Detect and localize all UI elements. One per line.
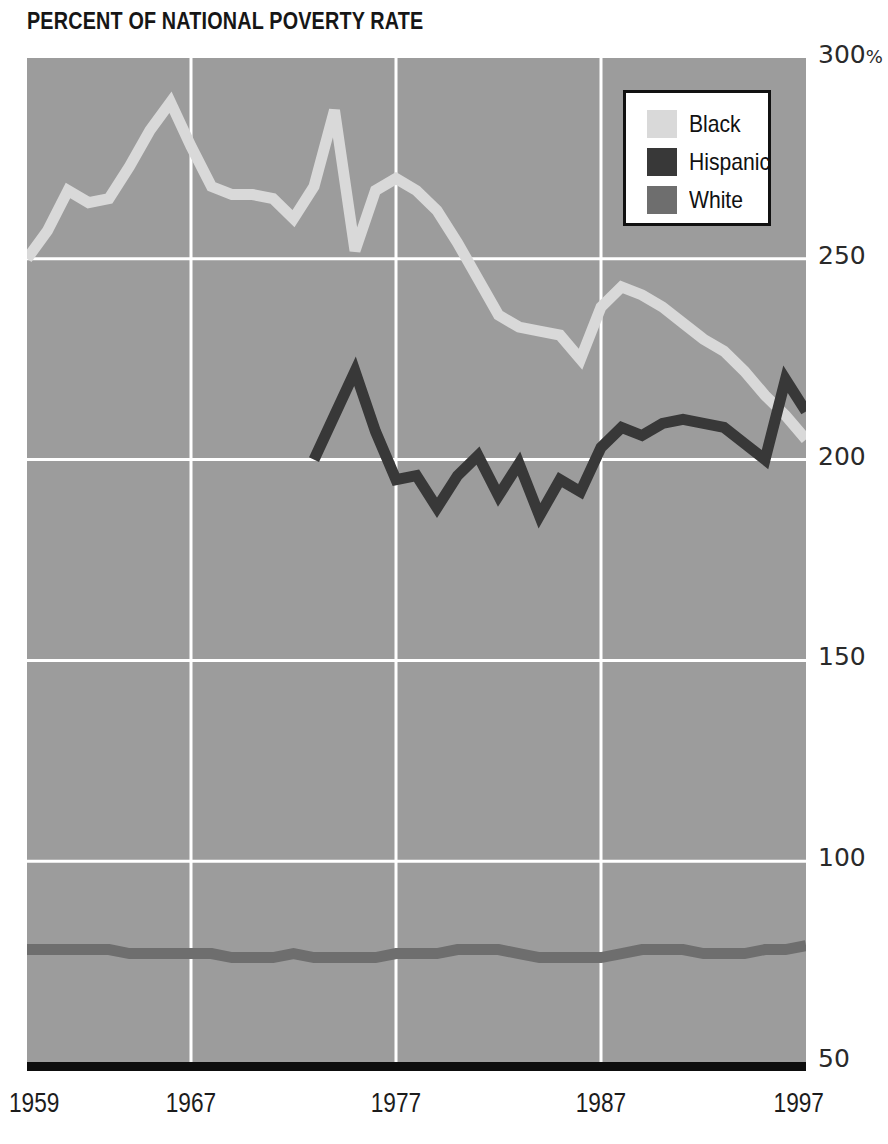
y-tick-value: 50 <box>818 1044 850 1073</box>
y-tick-value: 200 <box>818 442 866 471</box>
legend-item-label: Black <box>689 112 741 136</box>
series-line-white <box>27 946 806 958</box>
legend-item-hispanic[interactable]: Hispanic <box>647 147 781 177</box>
x-axis-tick-label: 1997 <box>757 1090 824 1117</box>
x-axis-tick-label: 1959 <box>9 1090 76 1117</box>
chart-legend: BlackHispanicWhite <box>623 90 771 226</box>
legend-swatch-icon <box>647 110 677 138</box>
x-axis-baseline <box>27 1062 806 1071</box>
legend-swatch-icon <box>647 186 677 214</box>
legend-item-white[interactable]: White <box>647 185 750 215</box>
series-line-hispanic <box>314 371 806 516</box>
poverty-rate-chart-figure: PERCENT OF NATIONAL POVERTY RATE 300%250… <box>0 0 888 1144</box>
horizontal-gridlines <box>27 259 806 861</box>
legend-item-label: White <box>689 188 743 212</box>
y-axis-tick-label: 50 <box>818 1046 850 1071</box>
legend-swatch-icon <box>647 148 677 176</box>
vertical-gridlines <box>191 58 601 1062</box>
y-tick-value: 150 <box>818 642 866 671</box>
y-tick-unit: % <box>866 46 883 67</box>
y-axis-tick-label: 200 <box>818 444 866 469</box>
legend-item-label: Hispanic <box>689 150 770 174</box>
y-tick-value: 100 <box>818 843 866 872</box>
y-tick-value: 250 <box>818 241 866 270</box>
page-title: PERCENT OF NATIONAL POVERTY RATE <box>27 8 423 35</box>
y-axis-tick-label: 250 <box>818 243 866 268</box>
y-axis-tick-label: 150 <box>818 644 866 669</box>
legend-item-black[interactable]: Black <box>647 109 748 139</box>
y-axis-tick-label: 100 <box>818 845 866 870</box>
x-axis-tick-label: 1987 <box>567 1090 634 1117</box>
y-axis-tick-label: 300% <box>818 42 883 67</box>
y-tick-value: 300 <box>818 40 866 69</box>
x-axis-tick-label: 1977 <box>362 1090 429 1117</box>
series-lines <box>27 102 806 957</box>
x-axis-tick-label: 1967 <box>157 1090 224 1117</box>
